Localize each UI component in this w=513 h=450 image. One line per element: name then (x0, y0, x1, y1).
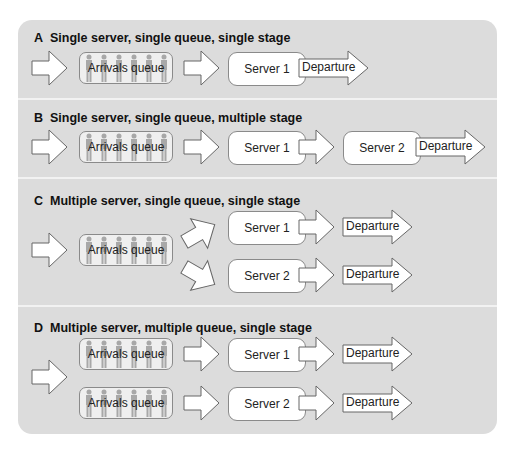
departure-label: Departure (419, 139, 472, 153)
arrivals-queue-box: Arrivals queue (79, 234, 173, 266)
split-arrow-down-icon (178, 256, 222, 296)
departure-label: Departure (302, 60, 355, 74)
split-arrow-up-icon (178, 213, 222, 253)
arrivals-queue-box: Arrivals queue (79, 387, 173, 419)
flow-arrow-icon (183, 50, 221, 86)
section-b-letter: B (34, 111, 50, 125)
queue-label: Arrivals queue (80, 396, 172, 410)
departure-label: Departure (346, 219, 399, 233)
server-1-box: Server 1 (228, 52, 306, 86)
server-1-box: Server 1 (228, 338, 306, 372)
flow-arrow-icon (298, 336, 336, 372)
departure-arrow: Departure (342, 257, 414, 297)
divider-c-d (18, 305, 497, 307)
queue-label: Arrivals queue (80, 347, 172, 361)
flow-arrow-icon (298, 209, 336, 245)
section-b-title: BSingle server, single queue, multiple s… (34, 111, 302, 125)
departure-arrow: Departure (298, 50, 370, 90)
queue-label: Arrivals queue (80, 61, 172, 75)
divider-a-b (18, 98, 497, 100)
departure-label: Departure (346, 395, 399, 409)
arrivals-queue-box: Arrivals queue (79, 338, 173, 370)
departure-label: Departure (346, 346, 399, 360)
departure-label: Departure (346, 267, 399, 281)
flow-arrow-icon (298, 385, 336, 421)
departure-arrow: Departure (415, 129, 487, 169)
departure-arrow: Departure (342, 209, 414, 249)
arrivals-queue-box: Arrivals queue (79, 52, 173, 84)
arrival-arrow-icon (31, 50, 69, 86)
section-a-title: ASingle server, single queue, single sta… (34, 31, 290, 45)
queue-label: Arrivals queue (80, 140, 172, 154)
section-d-heading: Multiple server, multiple queue, single … (50, 321, 312, 335)
arrival-arrow-icon (31, 359, 69, 395)
section-c-heading: Multiple server, single queue, single st… (50, 194, 300, 208)
flow-arrow-icon (183, 385, 221, 421)
server-2-box: Server 2 (228, 259, 306, 293)
divider-b-c (18, 177, 497, 179)
server-1-box: Server 1 (228, 211, 306, 245)
section-c-letter: C (34, 194, 50, 208)
server-1-box: Server 1 (228, 131, 306, 165)
section-d-letter: D (34, 321, 50, 335)
queue-label: Arrivals queue (80, 243, 172, 257)
flow-arrow-icon (183, 336, 221, 372)
arrival-arrow-icon (31, 232, 69, 268)
section-a-heading: Single server, single queue, single stag… (50, 31, 290, 45)
flow-arrow-icon (183, 129, 221, 165)
departure-arrow: Departure (342, 336, 414, 376)
section-d-title: DMultiple server, multiple queue, single… (34, 321, 312, 335)
server-2-box: Server 2 (228, 387, 306, 421)
section-a-letter: A (34, 31, 50, 45)
arrivals-queue-box: Arrivals queue (79, 131, 173, 163)
section-c-title: CMultiple server, single queue, single s… (34, 194, 300, 208)
flow-arrow-icon (298, 257, 336, 293)
flow-arrow-icon (298, 129, 336, 165)
section-b-heading: Single server, single queue, multiple st… (50, 111, 302, 125)
server-2-box: Server 2 (343, 131, 421, 165)
arrival-arrow-icon (31, 129, 69, 165)
departure-arrow: Departure (342, 385, 414, 425)
